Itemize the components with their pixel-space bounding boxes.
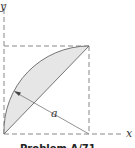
y-axis-label: y: [0, 0, 7, 13]
shaded-segment: [4, 46, 89, 134]
diagram: y x a Problem A/71: [0, 0, 135, 148]
x-axis-label: x: [126, 127, 133, 140]
radius-label: a: [51, 107, 58, 120]
figure-caption: Problem A/71: [20, 143, 96, 148]
